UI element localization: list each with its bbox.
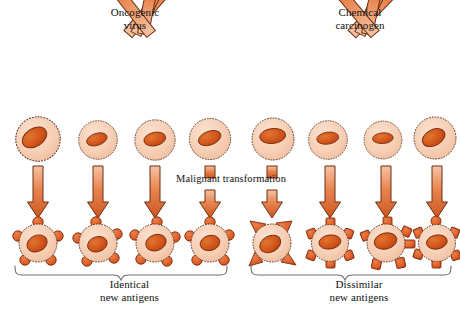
transformed-cell-left-4 bbox=[185, 217, 234, 265]
normal-cell-right-3 bbox=[364, 121, 402, 159]
transformed-cell-right-1 bbox=[249, 221, 296, 266]
arrow-transform-left-1 bbox=[28, 166, 49, 218]
normal-cell-right-1 bbox=[252, 118, 294, 160]
transformed-cell-right-3 bbox=[360, 217, 415, 270]
transformed-cell-right-4 bbox=[413, 216, 460, 268]
normal-cell-left-1 bbox=[16, 117, 61, 162]
arrow-transform-left-3 bbox=[145, 166, 166, 218]
arrow-transform-right-2 bbox=[320, 166, 341, 218]
transformed-cell-row-left bbox=[13, 217, 234, 266]
label-malignant-transformation: Malignant transformation bbox=[166, 173, 296, 186]
arrow-transform-right-3 bbox=[376, 166, 397, 218]
label-chemical-carcinogen: Chemical carcinogen bbox=[300, 6, 420, 31]
normal-cell-right-2 bbox=[309, 121, 348, 160]
arrow-transform-left-2 bbox=[88, 166, 109, 218]
malignant-transformation-diagram: Oncogenic virus Chemical carcinogen Mali… bbox=[0, 0, 460, 314]
label-identical-new-antigens: Identical new antigens bbox=[72, 278, 187, 303]
normal-cell-right-4 bbox=[414, 117, 456, 159]
transformed-cell-left-1 bbox=[13, 217, 63, 265]
normal-cell-row bbox=[16, 117, 456, 162]
label-dissimilar-new-antigens: Dissimilar new antigens bbox=[298, 278, 420, 303]
transformed-cell-right-2 bbox=[306, 218, 355, 268]
diagram-canvas bbox=[0, 0, 460, 314]
transformed-cell-left-3 bbox=[130, 217, 180, 266]
normal-cell-left-3 bbox=[135, 120, 175, 160]
normal-cell-left-4 bbox=[189, 118, 230, 159]
label-oncogenic-virus: Oncogenic virus bbox=[80, 6, 190, 31]
normal-cell-left-2 bbox=[79, 121, 118, 160]
transformed-cell-left-2 bbox=[73, 217, 122, 266]
transformed-cell-row-right bbox=[249, 216, 460, 270]
arrow-transform-right-4 bbox=[427, 166, 448, 218]
